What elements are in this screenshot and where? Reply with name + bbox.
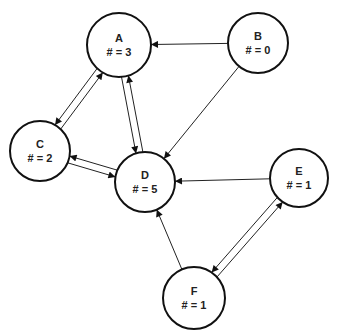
edge-f-to-e	[217, 202, 283, 277]
edge-f-to-d	[157, 210, 182, 270]
node-name: B	[254, 30, 262, 42]
node-circle	[10, 121, 70, 181]
edge-a-to-d	[122, 77, 137, 153]
node-count: # = 5	[133, 183, 158, 195]
node-count: # = 0	[246, 44, 271, 56]
edge-d-to-a	[128, 76, 143, 153]
edge-e-to-d	[175, 179, 270, 181]
node-name: E	[295, 165, 302, 177]
node-circle	[228, 13, 288, 73]
node-count: # = 3	[107, 46, 132, 58]
node-b: B# = 0	[228, 13, 288, 73]
node-name: F	[191, 285, 198, 297]
node-f: F# = 1	[163, 267, 225, 329]
node-circle	[87, 13, 151, 77]
node-name: A	[115, 32, 123, 44]
node-a: A# = 3	[87, 13, 151, 77]
edges-layer	[55, 43, 283, 277]
node-count: # = 1	[287, 179, 312, 191]
edge-e-to-f	[212, 197, 278, 272]
node-circle	[115, 152, 175, 212]
node-c: C# = 2	[10, 121, 70, 181]
node-d: D# = 5	[115, 152, 175, 212]
node-e: E# = 1	[270, 149, 328, 207]
node-count: # = 2	[28, 152, 53, 164]
edge-c-to-a	[61, 73, 103, 130]
node-name: C	[36, 138, 44, 150]
edge-c-to-d	[68, 163, 116, 177]
node-count: # = 1	[182, 299, 207, 311]
graph-diagram: A# = 3B# = 0C# = 2D# = 5E# = 1F# = 1	[0, 0, 337, 333]
node-circle	[270, 149, 328, 207]
edge-d-to-c	[70, 156, 118, 170]
edge-b-to-d	[164, 66, 239, 158]
node-circle	[163, 267, 225, 329]
graph-svg: A# = 3B# = 0C# = 2D# = 5E# = 1F# = 1	[0, 0, 337, 333]
node-name: D	[141, 169, 149, 181]
nodes-layer: A# = 3B# = 0C# = 2D# = 5E# = 1F# = 1	[10, 13, 328, 329]
edge-a-to-c	[55, 68, 97, 125]
edge-b-to-a	[151, 43, 228, 44]
